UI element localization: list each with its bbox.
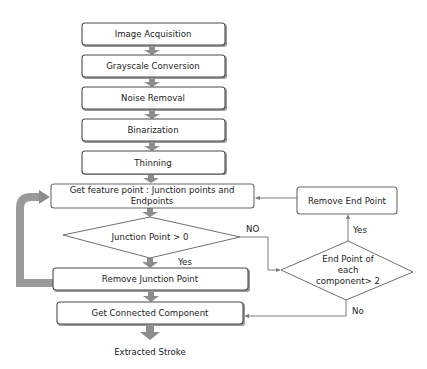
arrow-down-icon [144, 46, 160, 55]
decision-junction-point: Junction Point > 0 [63, 217, 240, 258]
arrowhead-up-icon [346, 214, 350, 219]
node-label-line1: Get feature point : Junction points and [70, 185, 235, 195]
loop-back-arrow [20, 190, 53, 283]
decision-label-line2: each [338, 265, 359, 275]
edge-label-endpoint-yes: Yes [352, 225, 367, 235]
decision-label-line1: End Point of [322, 254, 374, 264]
node-remove-junction-point: Remove Junction Point [53, 268, 250, 292]
node-label: Remove End Point [308, 196, 387, 206]
node-noise-removal: Noise Removal [82, 87, 227, 111]
decision-label: Junction Point > 0 [111, 232, 189, 242]
terminal-extracted-stroke: Extracted Stroke [114, 347, 186, 357]
node-label: Image Acquisition [115, 29, 192, 39]
arrow-down-icon [143, 291, 159, 302]
node-get-connected-component: Get Connected Component [57, 302, 245, 326]
arrow-down-icon [140, 325, 160, 340]
node-remove-end-point: Remove End Point [297, 187, 397, 214]
node-label: Remove Junction Point [102, 274, 199, 284]
node-get-feature-point: Get feature point : Junction points and … [51, 184, 254, 208]
node-label: Get Connected Component [92, 308, 210, 318]
arrow-down-icon [144, 142, 160, 151]
node-binarization: Binarization [82, 119, 227, 143]
edge-label-junction-no: NO [246, 224, 259, 234]
arrow-down-icon [142, 208, 158, 217]
flowchart-canvas: Image Acquisition Grayscale Conversion N… [0, 0, 427, 369]
arrowhead-left-icon [255, 196, 260, 200]
arrowhead-right-icon [276, 268, 281, 272]
node-label-line2: Endpoints [131, 196, 174, 206]
arrow-down-icon [142, 258, 158, 268]
arrow-down-icon [143, 174, 159, 183]
node-grayscale-conversion: Grayscale Conversion [82, 55, 227, 79]
node-label: Noise Removal [121, 93, 185, 103]
arrow-down-icon [144, 110, 160, 119]
node-label: Grayscale Conversion [106, 61, 200, 71]
decision-end-point-count: End Point of each component> 2 [281, 241, 413, 300]
node-label: Thinning [133, 158, 171, 168]
node-label: Binarization [127, 125, 178, 135]
arrow-down-icon [144, 78, 160, 87]
node-image-acquisition: Image Acquisition [82, 23, 227, 47]
edge-label-junction-yes: Yes [177, 257, 192, 267]
decision-label-line3: component> 2 [316, 276, 380, 286]
edge-label-endpoint-no: No [352, 306, 364, 316]
node-thinning: Thinning [82, 151, 227, 175]
